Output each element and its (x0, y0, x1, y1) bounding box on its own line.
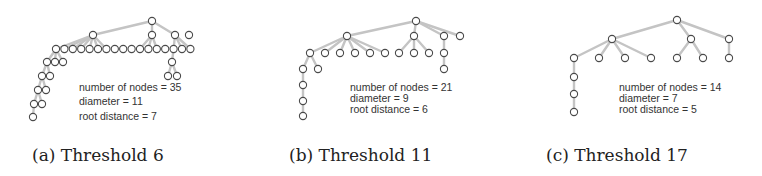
stat-root-distance: root distance = 5 (619, 103, 697, 115)
tree-node (168, 58, 175, 65)
tree-node (173, 72, 180, 79)
tree-edge (347, 21, 416, 36)
tree-node (570, 108, 577, 115)
stat-number-of-nodes: number of nodes = 35 (79, 81, 182, 93)
tree-node (570, 73, 577, 80)
tree-node (570, 90, 577, 97)
tree-node (46, 72, 53, 79)
tree-diagram-a: number of nodes = 35 diameter = 11 root … (29, 17, 194, 165)
tree-node (103, 45, 110, 52)
tree-node (69, 45, 76, 52)
tree-node (171, 31, 178, 38)
tree-edge (93, 21, 152, 35)
tree-node (94, 45, 101, 52)
stat-diameter: diameter = 11 (79, 95, 143, 107)
tree-node (687, 35, 694, 42)
tree-edge (612, 20, 677, 39)
tree-node (42, 86, 49, 93)
figure-canvas: number of nodes = 35 diameter = 11 root … (0, 0, 762, 176)
tree-node (162, 45, 169, 52)
tree-node (30, 100, 37, 107)
tree-node (185, 31, 192, 38)
tree-node (299, 97, 306, 104)
tree-node (395, 49, 402, 56)
caption-b: (b) Threshold 11 (289, 145, 432, 165)
tree-diagram-c: number of nodes = 14 diameter = 7 root d… (546, 16, 733, 165)
tree-node (51, 58, 58, 65)
tree-node (306, 49, 313, 56)
tree-node (299, 81, 306, 88)
tree-node (111, 45, 118, 52)
tree-node (128, 45, 135, 52)
tree-node (647, 54, 654, 61)
tree-node (86, 45, 93, 52)
tree-node (314, 65, 321, 72)
tree-node (456, 32, 463, 39)
tree-node (52, 45, 59, 52)
stat-root-distance: root distance = 7 (79, 110, 157, 122)
stat-root-distance: root distance = 6 (350, 103, 428, 115)
tree-node (425, 49, 432, 56)
tree-node (336, 49, 343, 56)
tree-node (43, 58, 50, 65)
tree-node (34, 86, 41, 93)
tree-node (148, 17, 155, 24)
tree-node (621, 54, 628, 61)
tree-node (145, 45, 152, 52)
tree-node (570, 54, 577, 61)
tree-node (299, 65, 306, 72)
tree-node (608, 35, 615, 42)
tree-node (38, 72, 45, 79)
tree-node (178, 45, 185, 52)
tree-node (381, 49, 388, 56)
tree-node (187, 45, 194, 52)
tree-node (410, 32, 417, 39)
tree-node (440, 32, 447, 39)
tree-node (38, 100, 45, 107)
caption-c: (c) Threshold 17 (546, 145, 688, 165)
tree-node (595, 54, 602, 61)
tree-node (170, 45, 177, 52)
tree-node (153, 45, 160, 52)
tree-node (343, 32, 350, 39)
tree-node (59, 58, 66, 65)
tree-node (120, 45, 127, 52)
tree-diagram-b: number of nodes = 21 diameter = 9 root d… (289, 17, 464, 165)
tree-node (351, 49, 358, 56)
tree-node (164, 72, 171, 79)
caption-a: (a) Threshold 6 (32, 145, 164, 165)
tree-node (136, 45, 143, 52)
tree-node (366, 49, 373, 56)
tree-node (61, 45, 68, 52)
tree-node (440, 49, 447, 56)
tree-node (29, 113, 36, 120)
tree-node (410, 49, 417, 56)
tree-node (412, 17, 419, 24)
tree-node (89, 31, 96, 38)
tree-node (673, 54, 680, 61)
tree-node (440, 65, 447, 72)
tree-node (725, 35, 732, 42)
tree-node (78, 45, 85, 52)
tree-node (699, 54, 706, 61)
tree-node (299, 112, 306, 119)
tree-node (673, 16, 680, 23)
tree-node (321, 49, 328, 56)
tree-node (148, 31, 155, 38)
tree-node (725, 54, 732, 61)
